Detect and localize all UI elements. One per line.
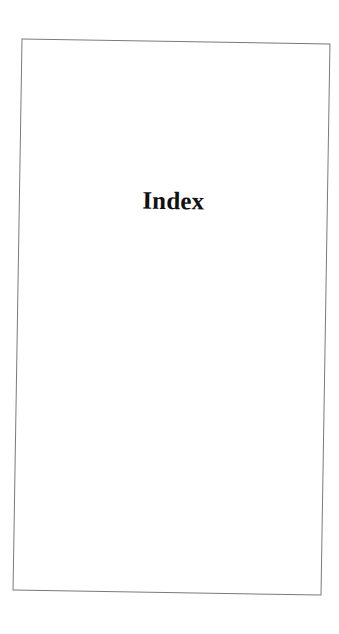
page-border-frame: Index bbox=[13, 39, 331, 596]
scanned-page: Index bbox=[0, 0, 339, 634]
page-title: Index bbox=[20, 185, 327, 218]
